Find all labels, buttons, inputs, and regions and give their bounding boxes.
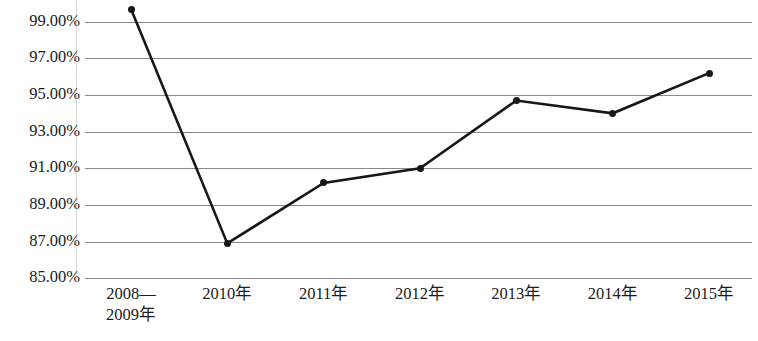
plot-area [85, 0, 752, 279]
data-series [85, 0, 752, 279]
data-point-marker [128, 6, 135, 13]
y-axis-tick-label: 95.00% [2, 86, 80, 103]
data-point-marker [224, 240, 231, 247]
x-axis-tick-label-line: 2015年 [649, 283, 758, 304]
y-axis-tick-label: 85.00% [2, 269, 80, 286]
y-axis-tick-label: 99.00% [2, 13, 80, 30]
y-axis-tick-label: 89.00% [2, 196, 80, 213]
data-point-marker [417, 165, 424, 172]
series-line-path [85, 0, 752, 279]
x-axis-tick-label-line: 2009年 [71, 304, 191, 325]
data-point-marker [706, 70, 713, 77]
x-axis-labels: 2008—2009年2010年2011年2012年2013年2014年2015年 [85, 283, 752, 341]
data-point-marker [513, 97, 520, 104]
line-chart: 99.00%97.00%95.00%93.00%91.00%89.00%87.0… [0, 0, 758, 341]
y-axis-labels: 99.00%97.00%95.00%93.00%91.00%89.00%87.0… [0, 0, 80, 279]
y-axis-tick-label: 93.00% [2, 123, 80, 140]
y-axis-tick-label: 91.00% [2, 159, 80, 176]
data-point-marker [609, 110, 616, 117]
y-axis-tick-label: 87.00% [2, 233, 80, 250]
x-axis-tick-label: 2015年 [649, 283, 758, 304]
y-axis-tick-label: 97.00% [2, 49, 80, 66]
